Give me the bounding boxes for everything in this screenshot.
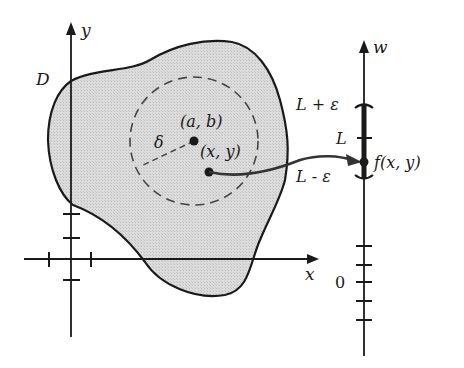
y-axis-label: y	[80, 20, 91, 40]
center-point	[190, 137, 199, 146]
center-point-label: (a, b)	[180, 112, 222, 131]
w-axis	[355, 40, 373, 356]
lower-bound-label: L - ε	[295, 167, 331, 186]
limit-definition-diagram: D y x w (a, b) (x, y) δ L + ε L L - ε f(…	[0, 0, 464, 368]
function-value-label: f(x, y)	[373, 153, 421, 172]
region-label: D	[35, 69, 50, 89]
w-axis-label: w	[373, 37, 388, 57]
zero-label: 0	[335, 273, 345, 292]
moving-point-label: (x, y)	[200, 142, 241, 161]
arrow-head	[346, 154, 362, 166]
limit-label: L	[335, 129, 347, 148]
x-axis-label: x	[305, 264, 315, 284]
upper-bound-label: L + ε	[295, 95, 339, 114]
delta-label: δ	[154, 133, 164, 152]
region-d	[48, 41, 288, 296]
